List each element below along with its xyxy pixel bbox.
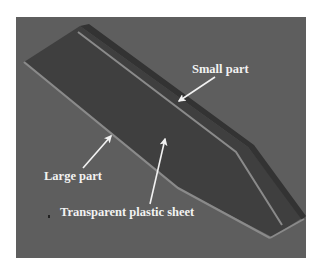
label-small-part: Small part	[192, 62, 249, 76]
speck	[48, 215, 50, 218]
label-transparent-plastic-sheet: Transparent plastic sheet	[60, 205, 195, 219]
part-diagram: Small part Large part Transparent plasti…	[0, 0, 322, 271]
label-large-part: Large part	[44, 169, 103, 183]
